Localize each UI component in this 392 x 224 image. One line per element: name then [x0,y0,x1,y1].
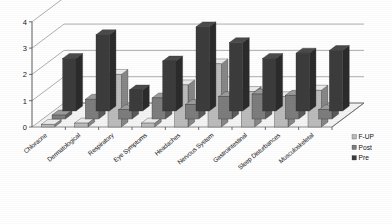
gridline-depth [32,50,64,74]
y-axis-tick-label: 0 [23,123,27,132]
x-axis-category-label: Chloracne [22,131,48,155]
y-axis-tick-label: 3 [23,44,27,53]
x-axis-category-label: Eye Symptoms [112,131,149,164]
bar-pre-gastrointestinal [263,53,283,111]
y-axis-tick-label: 2 [23,70,27,79]
legend-swatch-pre [352,156,356,160]
bar-pre-nervous-system [229,38,249,111]
bar-pre-eye-symptoms [163,56,183,111]
bar-pre-respiratory [129,85,149,111]
x-axis-category-label: Nervous System [176,131,215,166]
legend-swatch-f-up [352,135,356,139]
y-axis-tick-label: 4 [23,18,27,27]
legend-swatch-post [352,145,356,149]
bar-pre-dermatological [96,30,116,111]
bar-pre-musculoskeletal [329,46,349,111]
x-axis-category-label: Musculoskeletal [277,131,315,164]
legend-label-post: Post [359,144,372,151]
x-axis-category-label: Headaches [153,131,181,156]
x-axis-category-label: Gastrointestinal [211,131,248,163]
chart-canvas: 01234ChloracneDermatologicalRespiratoryE… [0,0,392,224]
gridline-depth [32,77,64,101]
gridline-depth [32,0,64,22]
gridline-depth [32,24,64,48]
legend-label-pre: Pre [359,154,370,161]
y-axis-tick-label: 1 [23,97,27,106]
bar-pre-chloracne [63,53,83,111]
bar-pre-headaches [196,22,216,111]
bar-pre-sleep-disturbances [296,48,316,111]
x-axis-category-label: Dermatological [46,131,82,163]
legend-label-f-up: F-UP [359,133,375,140]
x-axis-category-label: Respiratory [86,131,116,158]
bar-chart: 01234ChloracneDermatologicalRespiratoryE… [0,0,392,224]
